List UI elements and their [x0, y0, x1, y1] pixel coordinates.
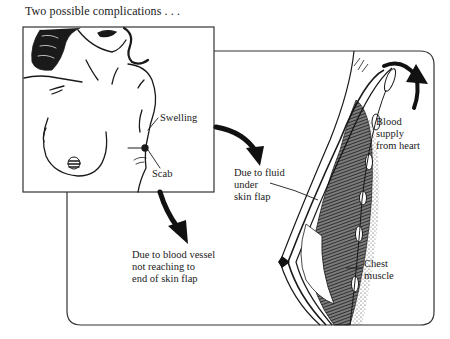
arrow-swelling-to-fluid-icon — [216, 127, 264, 166]
arrow-scab-to-vessel-icon — [160, 192, 188, 244]
label-swelling: Swelling — [160, 112, 197, 124]
label-blood-vessel-not-reaching: Due to blood vessel not reaching to end … — [132, 249, 215, 285]
label-scab: Scab — [152, 168, 172, 180]
label-chest-muscle: Chest muscle — [364, 258, 394, 282]
skin-flap-cross-section — [270, 51, 398, 325]
label-blood-supply-from-heart: Blood supply from heart — [376, 116, 420, 152]
label-fluid-under-skin-flap: Due to fluid under skin flap — [234, 167, 285, 203]
diagram-artwork — [0, 0, 450, 339]
